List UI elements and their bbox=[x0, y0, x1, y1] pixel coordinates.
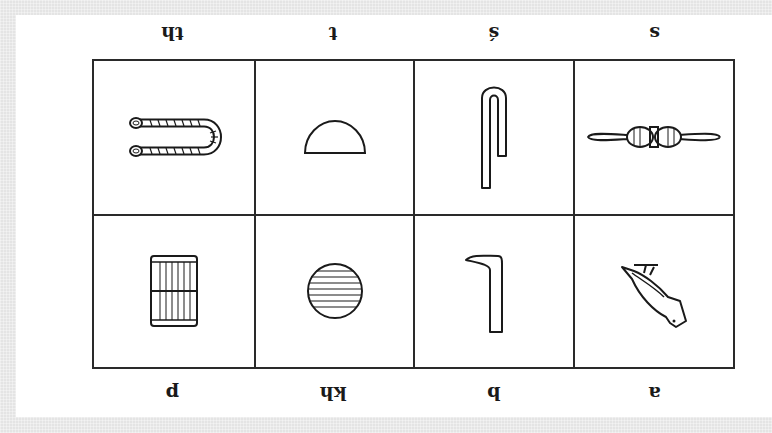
glyph-cell-th bbox=[94, 61, 254, 214]
hieroglyph-chart: a b kh p bbox=[0, 0, 772, 433]
sound-label: s bbox=[574, 19, 735, 49]
lower-label-row: s ś t th bbox=[92, 19, 735, 49]
door-bolt-hook-icon bbox=[474, 83, 514, 193]
glyph-cell-s bbox=[573, 61, 733, 214]
glyph-cell-b bbox=[414, 214, 574, 367]
tethering-rope-icon bbox=[124, 118, 224, 158]
sound-label: b bbox=[414, 379, 575, 409]
sound-label: p bbox=[92, 379, 253, 409]
upper-label-row: a b kh p bbox=[92, 379, 735, 409]
glyph-cell-p bbox=[94, 214, 254, 367]
glyph-cell-a bbox=[573, 214, 733, 367]
folded-cloth-icon bbox=[584, 123, 724, 153]
foot-icon bbox=[464, 247, 524, 337]
sound-label: t bbox=[253, 19, 414, 49]
sound-label: a bbox=[574, 379, 735, 409]
stool-mat-icon bbox=[148, 254, 200, 330]
glyph-cell-t bbox=[254, 61, 414, 214]
sound-label: th bbox=[92, 19, 253, 49]
glyph-cell-s-acute bbox=[414, 61, 574, 214]
placenta-circle-icon bbox=[305, 262, 365, 322]
sound-label: ś bbox=[414, 19, 575, 49]
vulture-icon bbox=[614, 252, 694, 332]
glyph-cell-kh bbox=[254, 214, 414, 367]
glyph-grid bbox=[92, 59, 735, 369]
sound-label: kh bbox=[253, 379, 414, 409]
bread-loaf-icon bbox=[303, 120, 367, 156]
